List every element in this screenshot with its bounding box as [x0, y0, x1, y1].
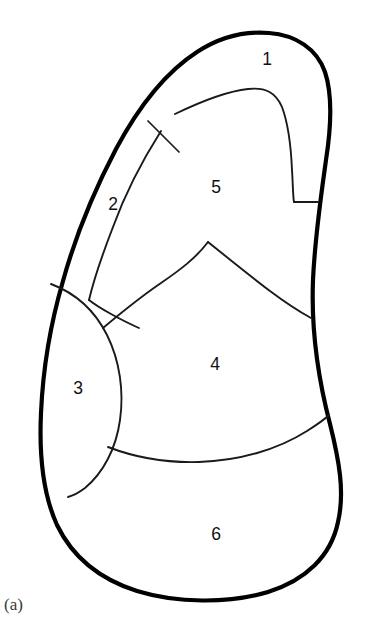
figure-container: 1 2 3 4 5 6 (a)	[0, 0, 365, 622]
region-label-3: 3	[73, 378, 83, 398]
figure-caption: (a)	[4, 596, 23, 613]
outer-contour-path	[41, 33, 342, 601]
region-label-2: 2	[108, 194, 118, 214]
region-label-1: 1	[262, 49, 272, 69]
region-label-4: 4	[210, 354, 220, 374]
sectional-diagram: 1 2 3 4 5 6	[0, 0, 365, 622]
region-label-6: 6	[211, 524, 221, 544]
region-label-5: 5	[211, 177, 221, 197]
